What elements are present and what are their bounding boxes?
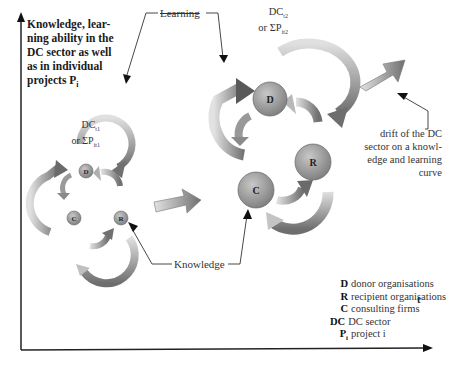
legend-item-donor: Ddonor organisations (336, 278, 446, 291)
x-axis (21, 344, 433, 352)
learning-arrowhead-right-icon (219, 55, 228, 63)
y-axis-label-line: DC sector as well (27, 45, 137, 59)
x-axis-label: t (417, 294, 420, 305)
legend-item-dc-sector: DCDC sector (336, 316, 446, 329)
y-axis-label-line: projects Pi (27, 73, 137, 92)
legend-item-recipient: Rrecipient organisations (336, 291, 446, 304)
node-consulting-t1: C (67, 211, 81, 225)
transition-arrow-icon (154, 189, 201, 213)
y-axis-label-line: as in individual (27, 59, 137, 73)
svg-text:C: C (71, 215, 76, 223)
node-recipient-t1: R (114, 211, 128, 225)
learning-connector (126, 13, 223, 78)
y-axis-label-line: ning ability in the (27, 31, 137, 45)
svg-text:D: D (266, 94, 273, 105)
drift-arrow-icon (360, 60, 405, 91)
svg-text:C: C (252, 185, 259, 196)
knowledge-arrowhead-left-icon (128, 222, 138, 232)
drift-connector (402, 96, 428, 129)
cluster-t1-label: DCt1 or ΣPit1 (58, 119, 100, 151)
svg-text:R: R (309, 157, 317, 168)
y-axis-label: Knowledge, lear- ning ability in the DC … (27, 17, 137, 92)
node-donor-t2: D (253, 82, 287, 116)
knowledge-arrowhead-right-icon (243, 209, 252, 219)
learning-label: Learning (160, 7, 200, 19)
knowledge-label: Knowledge (174, 258, 225, 270)
node-consulting-t2: C (238, 172, 274, 208)
cluster-t2: D C R (214, 43, 355, 230)
y-axis (17, 12, 25, 350)
drift-annotation: drift of the DC sector on a knowl- edge … (362, 127, 442, 179)
y-axis-label-line: Knowledge, lear- (27, 17, 137, 31)
legend-item-consulting: Cconsulting firms (336, 303, 446, 316)
cluster-t2-label: DCt2 or ΣPit2 (242, 6, 288, 38)
node-recipient-t2: R (295, 144, 331, 180)
legend-item-project: Piproject i (336, 328, 446, 345)
node-donor-t1: D (79, 164, 93, 178)
svg-text:D: D (83, 168, 88, 176)
legend: Ddonor organisations Rrecipient organisa… (336, 278, 446, 345)
knowledge-connector (131, 215, 247, 264)
